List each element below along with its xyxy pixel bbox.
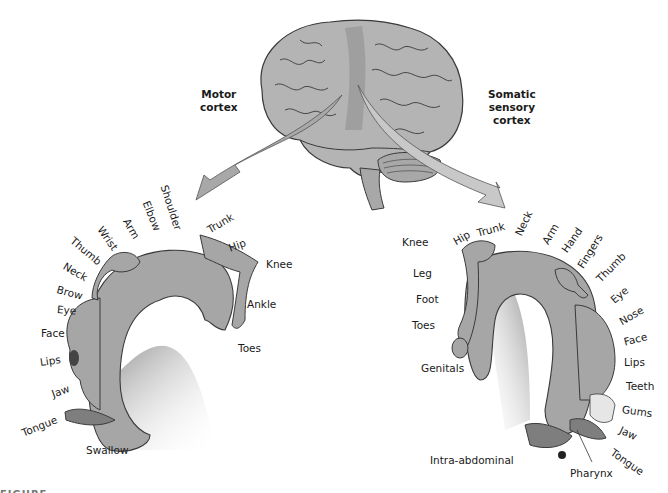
sensory-label-genitals: Genitals <box>421 363 464 374</box>
brain-illustration <box>261 20 463 210</box>
sensory-label-knee: Knee <box>402 237 428 248</box>
motor-label-ankle: Ankle <box>247 299 276 310</box>
motor-label-lips: Lips <box>39 354 61 367</box>
motor-label-swallow: Swallow <box>86 445 129 456</box>
motor-title-line1: Motor <box>200 88 238 101</box>
sensory-label-foot: Foot <box>416 294 439 305</box>
figure-caption-fragment: FIGURE <box>0 489 47 493</box>
sensory-label-pharynx: Pharynx <box>570 468 613 479</box>
sensory-title-line3: cortex <box>488 114 536 127</box>
sensory-label-toes: Toes <box>412 320 435 331</box>
sensory-genitals-icon <box>452 338 468 358</box>
motor-label-face: Face <box>41 328 65 339</box>
motor-cortex-title: Motor cortex <box>200 88 238 114</box>
motor-title-line2: cortex <box>200 101 238 114</box>
sensory-label-leg: Leg <box>413 268 432 279</box>
motor-label-toes: Toes <box>238 343 261 354</box>
brainstem-icon <box>360 168 384 210</box>
sensory-label-intra-abdominal: Intra-abdominal <box>430 455 514 466</box>
sensory-label-teeth: Teeth <box>626 381 654 392</box>
motor-label-knee: Knee <box>266 259 292 270</box>
sensory-teeth-icon <box>590 394 615 423</box>
motor-homunculus <box>65 235 258 451</box>
motor-mouth-icon <box>69 350 79 366</box>
sensory-title-line1: Somatic <box>488 88 536 101</box>
sensory-homunculus <box>452 241 615 462</box>
sensory-pharynx-opening-icon <box>558 451 566 459</box>
sensory-cortex-title: Somatic sensory cortex <box>488 88 536 127</box>
motor-label-eye: Eye <box>57 304 77 316</box>
sensory-label-lips: Lips <box>624 357 645 368</box>
sensory-title-line2: sensory <box>488 101 536 114</box>
